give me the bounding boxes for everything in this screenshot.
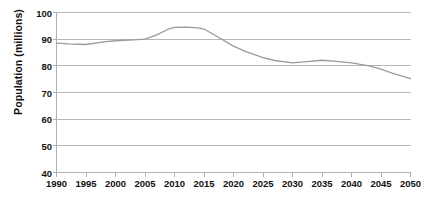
x-tick-label-2050: 2050	[391, 178, 425, 189]
population-line-chart: Population (millions) 405060708090100 19…	[0, 0, 425, 202]
x-axis-tick-labels: 1990199520002005201020152020202520302035…	[0, 178, 425, 194]
y-axis-tick-marks	[53, 13, 57, 173]
gridlines	[57, 13, 411, 173]
series-line-0	[57, 27, 411, 78]
x-axis-tick-marks	[57, 173, 411, 177]
data-series-layer	[57, 27, 411, 78]
plot-area	[0, 0, 425, 202]
